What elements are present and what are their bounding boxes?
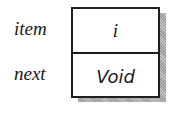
field-label-item: item: [14, 18, 64, 40]
next-value: Void: [96, 66, 135, 87]
field-label-next: next: [14, 63, 64, 85]
next-field-cell: Void: [73, 54, 158, 98]
item-field-cell: i: [73, 9, 158, 53]
item-value: i: [113, 20, 118, 42]
linkable-cell-box: i Void: [71, 7, 160, 98]
